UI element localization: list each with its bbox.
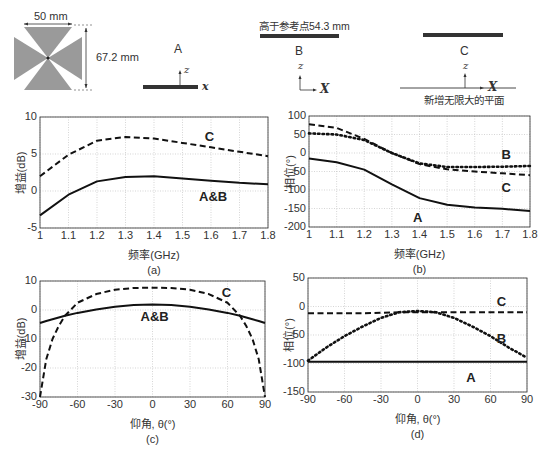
x-axis-label: 仰角, θ(°) [378, 410, 458, 426]
series-c-line [308, 312, 527, 313]
x-tick-label: -60 [335, 393, 355, 405]
y-tick-label: -150 [274, 385, 305, 397]
x-tick-label: 60 [481, 393, 501, 405]
x-tick-label: -30 [371, 393, 391, 405]
series-annotation: B [497, 331, 506, 346]
plot-area-d [0, 0, 545, 450]
series-annotation: C [497, 294, 506, 309]
x-tick-label: 0 [408, 393, 428, 405]
y-axis-label: 相位(°) [280, 305, 296, 365]
x-tick-label: 30 [444, 393, 464, 405]
x-tick-label: 90 [517, 393, 537, 405]
y-tick-label: 50 [274, 271, 305, 283]
chart-caption: (d) [403, 428, 433, 440]
series-annotation: A [466, 370, 475, 385]
